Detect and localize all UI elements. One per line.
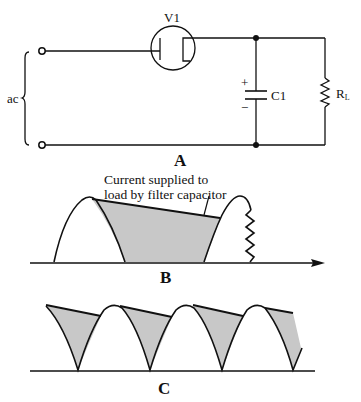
ac-brace [22, 52, 29, 145]
annotation-line-2: load by filter capacitor [104, 187, 227, 202]
load-resistor [321, 78, 329, 107]
ripple-zigzag [246, 210, 254, 262]
junction-top [253, 35, 259, 41]
input-terminal-top [39, 48, 45, 54]
tube-plate [183, 38, 192, 61]
annotation-text: Current supplied to load by filter capac… [104, 172, 227, 202]
annotation-line-1: Current supplied to [104, 172, 227, 187]
axis-arrowhead-b [311, 259, 325, 267]
junction-bottom [253, 142, 259, 148]
panel-label-b: B [160, 269, 171, 286]
capacitor-minus-sign: − [241, 101, 248, 114]
vacuum-tube-v1 [151, 26, 195, 70]
tube-label: V1 [164, 11, 180, 24]
capacitor-label: C1 [271, 89, 286, 102]
panel-label-c: C [158, 380, 170, 397]
waveform-b [30, 196, 325, 267]
load-label-sub: L [345, 93, 350, 102]
capacitor-plus-sign: + [241, 76, 248, 89]
input-terminal-bottom [39, 142, 45, 148]
load-resistor-label: RL [336, 87, 350, 102]
waveform-c [30, 305, 315, 371]
panel-label-a: A [174, 152, 186, 169]
load-label-main: R [336, 86, 345, 101]
source-label: ac [7, 92, 19, 105]
